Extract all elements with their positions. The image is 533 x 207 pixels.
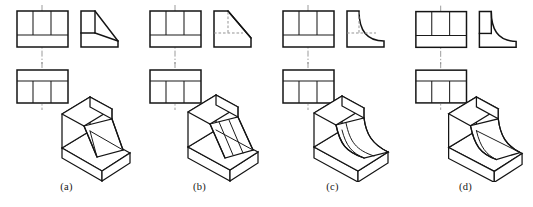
top-view-outline-a <box>17 70 68 103</box>
top-view-d <box>416 62 467 110</box>
option-group-b[interactable]: (b) <box>133 0 266 207</box>
side-view-c <box>347 11 384 47</box>
isometric-view-b <box>188 95 258 181</box>
top-view-outline-d <box>416 70 467 103</box>
side-view-outline-a <box>81 11 118 47</box>
side-view-outline-d <box>479 12 516 48</box>
side-view-d <box>479 12 516 48</box>
option-label-c: (c) <box>266 180 399 194</box>
front-view-outline-a <box>17 11 68 47</box>
side-view-a <box>81 11 118 47</box>
top-view-outline-c <box>283 70 334 103</box>
front-view-d <box>416 6 467 65</box>
option-a-drawing <box>0 0 133 182</box>
figure-root: (a) <box>0 0 533 207</box>
top-view-c <box>283 62 334 110</box>
side-view-outline-c <box>347 11 384 47</box>
option-label-a: (a) <box>0 180 133 194</box>
option-label-b: (b) <box>133 180 266 194</box>
front-view-b <box>150 5 201 64</box>
front-view-c <box>283 5 334 64</box>
top-view-outline-b <box>150 70 201 103</box>
option-d-drawing <box>399 0 532 182</box>
option-label-d: (d) <box>399 180 532 194</box>
option-group-a[interactable]: (a) <box>0 0 133 207</box>
option-c-drawing <box>266 0 399 182</box>
front-view-a <box>17 5 68 64</box>
option-b-drawing <box>133 0 266 182</box>
isometric-view-c <box>314 96 388 182</box>
top-view-a <box>17 62 68 110</box>
top-view-b <box>150 62 201 110</box>
option-group-d[interactable]: (d) <box>399 0 532 207</box>
isometric-view-a <box>62 97 130 181</box>
isometric-view-d <box>449 97 522 182</box>
front-view-outline-b <box>150 11 201 47</box>
front-view-outline-d <box>416 12 467 48</box>
side-view-b <box>214 11 251 47</box>
front-view-outline-c <box>283 11 334 47</box>
option-group-c[interactable]: (c) <box>266 0 399 207</box>
